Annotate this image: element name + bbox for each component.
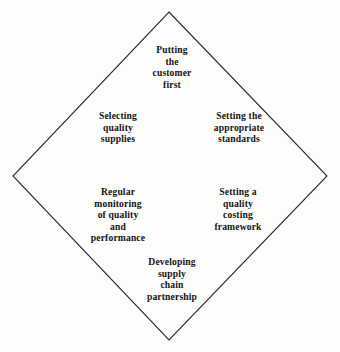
label-setting-a-quality-costing-framework: Setting a quality costing framework [190, 186, 286, 232]
label-putting-the-customer-first: Putting the customer first [124, 44, 220, 90]
label-developing-supply-chain-partnership: Developing supply chain partnership [120, 256, 224, 302]
label-selecting-quality-supplies: Selecting quality supplies [72, 110, 164, 145]
diamond-diagram: Putting the customer first Selecting qua… [0, 0, 340, 352]
label-regular-monitoring-of-quality-and-performance: Regular monitoring of quality and perfor… [68, 186, 168, 244]
label-setting-the-appropriate-standards: Setting the appropriate standards [191, 110, 287, 145]
